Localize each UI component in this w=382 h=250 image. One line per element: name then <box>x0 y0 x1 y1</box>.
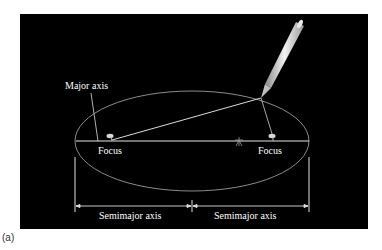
semimajor-axis-right-label: Semimajor axis <box>214 210 277 222</box>
semimajor-dimension-right <box>193 205 308 208</box>
focus-right-label: Focus <box>258 145 282 157</box>
pin-icon <box>269 134 276 141</box>
major-axis-label: Major axis <box>65 80 108 92</box>
figure-caption: (a) <box>2 232 14 244</box>
focus-left-label: Focus <box>98 145 122 157</box>
pencil-icon <box>261 19 304 98</box>
string-left <box>112 98 261 140</box>
semimajor-dimension-left <box>76 205 191 208</box>
ellipse-diagram <box>0 0 382 250</box>
major-axis-leader <box>91 93 98 141</box>
semimajor-axis-left-label: Semimajor axis <box>99 210 162 222</box>
